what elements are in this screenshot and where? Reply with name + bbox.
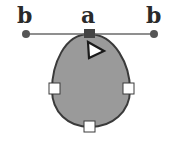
anchor-handle-right[interactable] [123,83,134,94]
bezier-diagram [0,0,171,145]
anchor-handle-bottom[interactable] [84,121,95,132]
anchor-handle-left[interactable] [49,83,60,94]
control-point-right[interactable] [150,30,158,38]
control-point-left[interactable] [22,30,30,38]
anchor-handle-selected[interactable] [84,29,95,38]
